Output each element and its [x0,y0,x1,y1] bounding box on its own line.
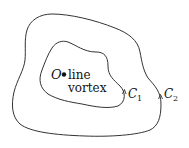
c1-label: C [128,87,137,101]
c2-subscript: 2 [173,94,178,103]
vortex-label-line2: vortex [67,81,107,95]
vortex-contour-diagram: O line vortex C 1 C 2 [0,0,189,148]
point-o-label: O [51,67,62,82]
c1-subscript: 1 [137,94,142,103]
vortex-label-line1: line [68,68,91,82]
c2-label: C [164,87,173,101]
vortex-point-icon [62,72,66,76]
